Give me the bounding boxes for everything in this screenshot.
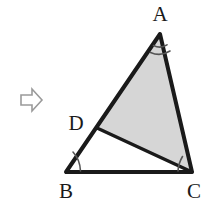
geometry-figure-svg: A B C D: [0, 0, 218, 209]
vertex-label-b: B: [59, 179, 73, 203]
vertex-label-d: D: [68, 111, 83, 135]
vertex-label-a: A: [152, 2, 168, 26]
geometry-figure-container: A B C D: [0, 0, 218, 209]
vertex-label-c: C: [187, 179, 201, 203]
